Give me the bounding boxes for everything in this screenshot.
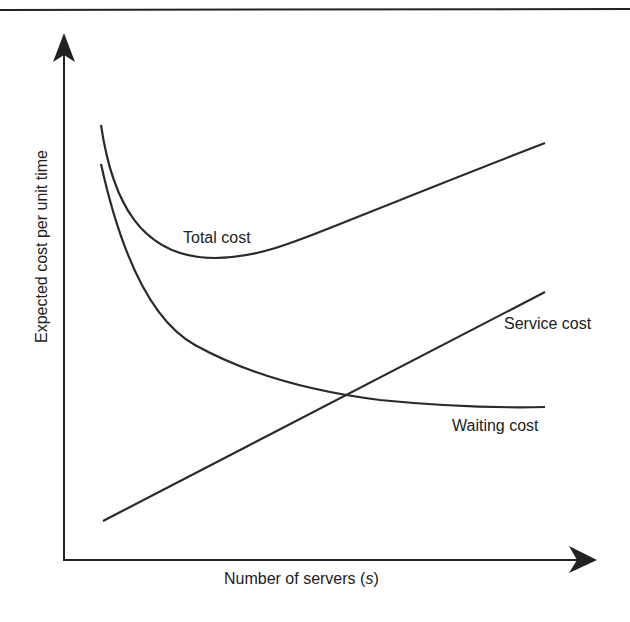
y-axis-label: Expected cost per unit time — [34, 150, 50, 343]
cost-chart: Expected cost per unit time Number of se… — [0, 0, 630, 622]
x-axis-label-prefix: Number of servers ( — [224, 570, 365, 587]
top-rule — [0, 9, 630, 10]
chart-canvas — [0, 0, 630, 622]
x-axis-label: Number of servers (s) — [224, 571, 379, 587]
x-axis-label-suffix: ) — [373, 570, 378, 587]
total-cost-curve — [101, 125, 545, 258]
service-cost-label: Service cost — [504, 316, 591, 332]
waiting-cost-label: Waiting cost — [452, 418, 539, 434]
waiting-cost-curve — [101, 164, 545, 407]
total-cost-label: Total cost — [183, 230, 251, 246]
